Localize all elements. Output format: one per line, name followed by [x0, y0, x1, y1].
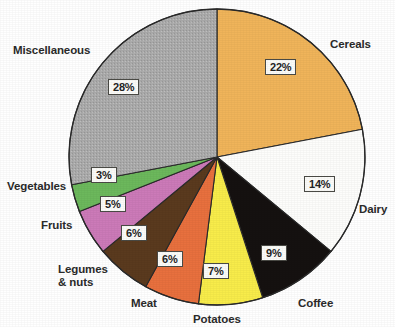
pie-chart-figure: 22% 14% 9% 7% 6% 6% 5% 3% 28% Cereals Da…	[0, 0, 395, 327]
category-label-legumes-line2: & nuts	[58, 276, 93, 288]
category-label-miscellaneous: Miscellaneous	[13, 44, 90, 57]
slice-value-miscellaneous: 28%	[108, 79, 139, 95]
category-label-potatoes: Potatoes	[193, 313, 241, 326]
slice-value-cereals: 22%	[265, 59, 296, 75]
category-label-coffee: Coffee	[298, 297, 333, 310]
slice-value-meat: 6%	[157, 251, 183, 267]
slice-value-dairy: 14%	[304, 176, 335, 192]
category-label-fruits: Fruits	[41, 219, 72, 232]
category-label-vegetables: Vegetables	[7, 180, 66, 193]
pie-slice-miscellaneous	[69, 9, 217, 185]
category-label-meat: Meat	[131, 297, 157, 310]
category-label-dairy: Dairy	[359, 203, 387, 216]
slice-value-potatoes: 7%	[203, 263, 229, 279]
slice-value-legumes-nuts: 6%	[121, 225, 147, 241]
category-label-legumes-line1: Legumes	[58, 263, 108, 275]
slice-value-vegetables: 3%	[91, 167, 117, 183]
category-label-cereals: Cereals	[330, 38, 371, 51]
category-label-legumes-nuts: Legumes & nuts	[58, 263, 108, 289]
slice-value-coffee: 9%	[261, 245, 287, 261]
slice-value-fruits: 5%	[100, 196, 126, 212]
